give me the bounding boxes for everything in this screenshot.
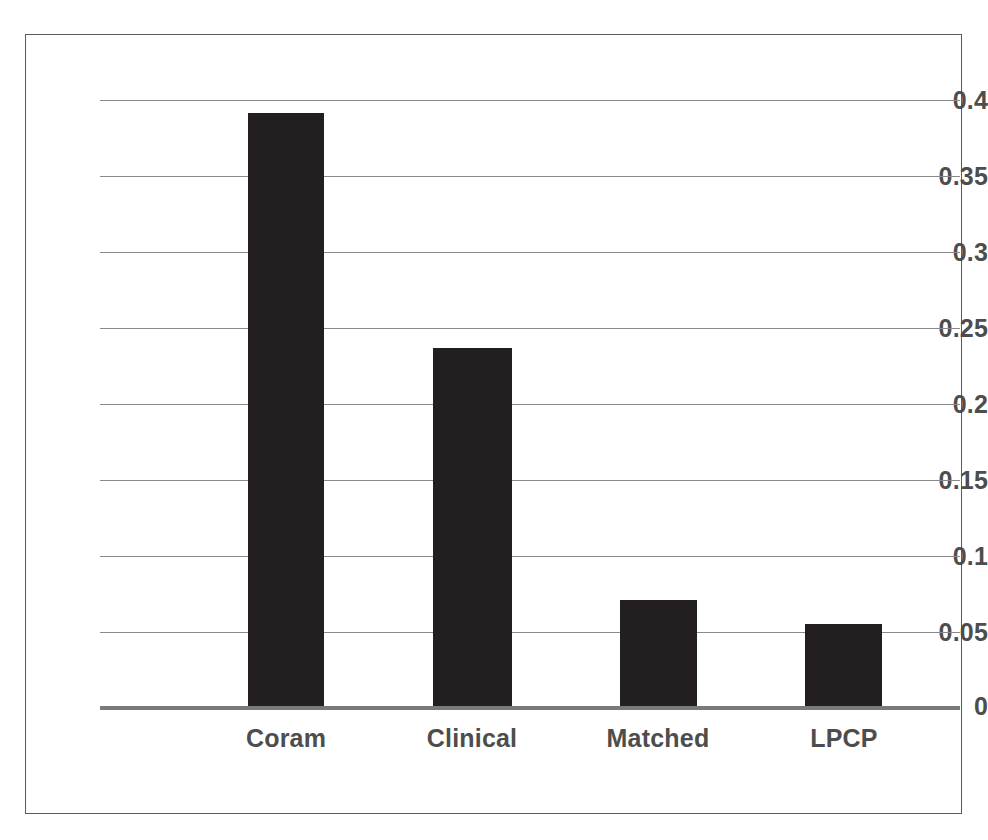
gridline-0.1 (100, 556, 960, 557)
gridline-0.3 (100, 252, 960, 253)
gridline-0.2 (100, 404, 960, 405)
gridline-0.15 (100, 480, 960, 481)
xtick-label-clinical: Clinical (427, 726, 518, 751)
bar-coram[interactable] (248, 113, 324, 708)
bar-chart-figure: 0.4 0.35 0.3 0.25 0.2 0.15 0.1 0.05 0 Co… (0, 0, 988, 840)
xtick-label-matched: Matched (607, 726, 710, 751)
plot-area (100, 100, 960, 708)
xtick-label-lpcp: LPCP (810, 726, 877, 751)
bar-clinical[interactable] (433, 348, 512, 708)
bar-lpcp[interactable] (805, 624, 882, 708)
gridline-0.35 (100, 176, 960, 177)
gridline-0.25 (100, 328, 960, 329)
x-axis-line (100, 706, 960, 710)
bar-matched[interactable] (620, 600, 697, 708)
xtick-label-coram: Coram (246, 726, 326, 751)
gridline-0.4 (100, 100, 960, 101)
